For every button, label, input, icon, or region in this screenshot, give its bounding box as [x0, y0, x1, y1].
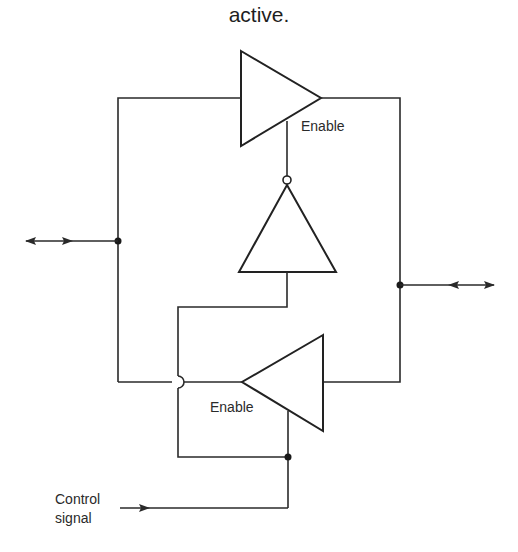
control-label-line1: Control	[55, 491, 100, 507]
bidirectional-bus-diagram: active. Enable Enable Control signal	[0, 0, 518, 552]
bottom-buffer-icon	[242, 335, 323, 431]
right-top-wire	[321, 98, 400, 382]
caption-text: active.	[229, 3, 290, 26]
inverter-input-wire	[178, 272, 287, 376]
top-enable-label: Enable	[301, 118, 345, 134]
control-junction-dot	[285, 454, 292, 461]
left-top-wire	[118, 98, 241, 382]
crossover-hop	[178, 376, 184, 388]
bottom-enable-label: Enable	[210, 399, 254, 415]
inverter-icon	[239, 185, 336, 272]
inverter-bubble-icon	[283, 176, 291, 184]
control-label-line2: signal	[55, 510, 92, 526]
